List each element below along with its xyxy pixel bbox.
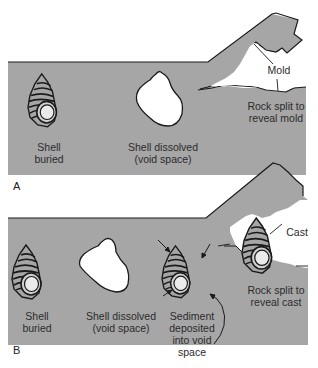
label-line: into void (162, 334, 222, 346)
label-shell-dissolved-a: Shell dissolved (void space) (118, 141, 208, 165)
label-line: Shell dissolved (76, 310, 166, 322)
label-line: Rock split to (236, 284, 316, 296)
label-line: buried (28, 153, 70, 165)
panel-letter-b: B (13, 344, 20, 356)
label-line: reveal cast (236, 296, 316, 308)
label-line: Shell (28, 141, 70, 153)
label-cast: Cast (282, 226, 312, 238)
label-sediment: Sediment deposited into void space (162, 310, 222, 358)
label-rock-split-cast: Rock split to reveal cast (236, 284, 316, 308)
label-line: space (162, 346, 222, 358)
label-line: Shell (16, 310, 58, 322)
label-line: (void space) (76, 322, 166, 334)
label-line: Rock split to (236, 100, 316, 112)
label-mold: Mold (264, 64, 294, 76)
label-line: (void space) (118, 153, 208, 165)
label-shell-dissolved-b: Shell dissolved (void space) (76, 310, 166, 334)
label-line: Shell dissolved (118, 141, 208, 153)
label-line: buried (16, 322, 58, 334)
label-line: Sediment (162, 310, 222, 322)
panel-letter-a: A (13, 180, 20, 192)
label-line: deposited (162, 322, 222, 334)
label-rock-split-mold: Rock split to reveal mold (236, 100, 316, 124)
label-shell-buried-b: Shell buried (16, 310, 58, 334)
label-shell-buried-a: Shell buried (28, 141, 70, 165)
label-line: reveal mold (236, 112, 316, 124)
